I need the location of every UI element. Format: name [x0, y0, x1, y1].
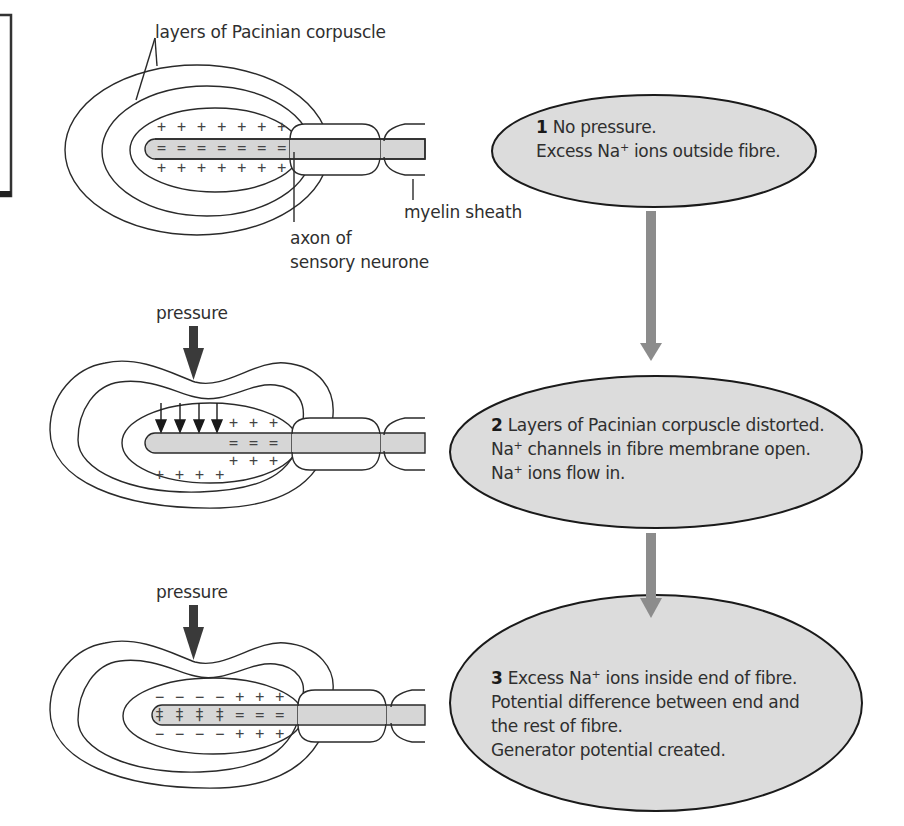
page-edge-frame — [0, 15, 11, 197]
step-text-2: 2 Layers of Pacinian corpuscle distorted… — [491, 413, 824, 485]
step-line: 3 Excess Na+ ions inside end of fibre. — [491, 666, 799, 690]
axon — [145, 433, 425, 453]
step-line: 1 No pressure. — [536, 115, 780, 139]
step-number: 2 — [491, 415, 503, 435]
label-axon-line2: sensory neurone — [290, 252, 429, 272]
charges-d2-bot-right: + + + — [229, 452, 279, 470]
charges-d3-mid: ‡ ‡ ‡ ‡ = = = — [155, 706, 285, 724]
force-arrows — [156, 403, 222, 432]
step-text-1: 1 No pressure. Excess Na+ ions outside f… — [536, 115, 780, 163]
pressure-arrow-2 — [183, 326, 204, 380]
label-myelin-sheath: myelin sheath — [404, 202, 522, 222]
charges-d3-top: − − − − + + + — [155, 688, 285, 706]
label-layers-of-pacinian-corpuscle: layers of Pacinian corpuscle — [155, 22, 386, 42]
charges-d2-mid: = = = — [229, 434, 279, 452]
step-line: Excess Na+ ions outside fibre. — [536, 139, 780, 163]
charges-d1-top: + + + + + + + — [157, 118, 287, 136]
step-line: Generator potential created. — [491, 738, 799, 762]
pressure-arrow-3 — [183, 605, 204, 660]
label-axon-line1: axon of — [290, 228, 352, 248]
charges-d3-bot: − − − − + + + — [155, 725, 285, 743]
step-line: Na+ channels in fibre membrane open. — [491, 437, 824, 461]
corpuscle-diagram-1 — [65, 38, 425, 235]
charges-d1-mid: = = = = = = = — [157, 139, 287, 157]
step-line: Potential difference between end and — [491, 690, 799, 714]
step-text-3: 3 Excess Na+ ions inside end of fibre. P… — [491, 666, 799, 762]
label-pressure-3: pressure — [156, 582, 228, 602]
flow-arrow-1 — [640, 211, 662, 361]
charges-d2-top: + + + — [229, 414, 279, 432]
charges-d2-bot-left: + + + + — [155, 466, 225, 484]
step-number: 3 — [491, 668, 503, 688]
charges-d1-bot: + + + + + + + — [157, 159, 287, 177]
step-line: 2 Layers of Pacinian corpuscle distorted… — [491, 413, 824, 437]
step-number: 1 — [536, 117, 548, 137]
step-line: Na+ ions flow in. — [491, 461, 824, 485]
step-line: the rest of fibre. — [491, 714, 799, 738]
label-pressure-2: pressure — [156, 303, 228, 323]
